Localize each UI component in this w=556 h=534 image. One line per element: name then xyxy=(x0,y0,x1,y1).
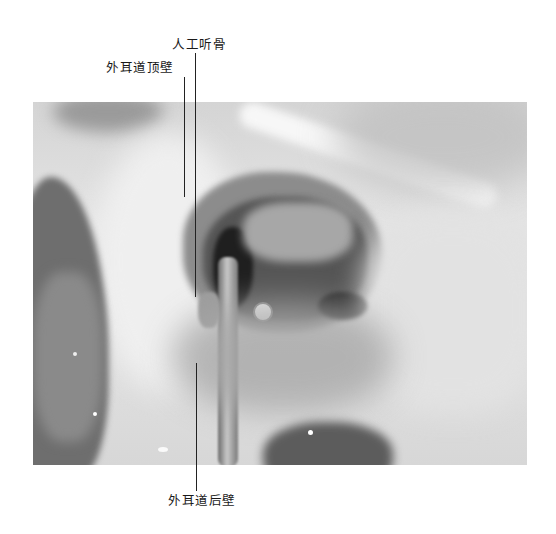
surgical-photo xyxy=(33,102,527,465)
label-artificial-ossicle: 人工听骨 xyxy=(172,38,226,52)
specular-highlight xyxy=(308,430,313,435)
label-ear-canal-superior-wall: 外耳道顶壁 xyxy=(106,61,174,75)
leader-line-artificial-ossicle xyxy=(195,53,196,297)
lower-canal-floor xyxy=(173,302,393,412)
leader-line-ear-canal-superior-wall xyxy=(184,77,185,197)
left-tissue-mass-highlight xyxy=(33,272,103,442)
specular-highlight xyxy=(158,447,168,452)
label-ear-canal-posterior-wall: 外耳道后壁 xyxy=(168,494,236,508)
specular-highlight xyxy=(73,352,77,356)
specular-highlight xyxy=(93,412,97,416)
right-bone-surface xyxy=(363,212,527,412)
leader-line-ear-canal-posterior-wall xyxy=(196,363,197,491)
ossicle-structures xyxy=(243,202,353,262)
